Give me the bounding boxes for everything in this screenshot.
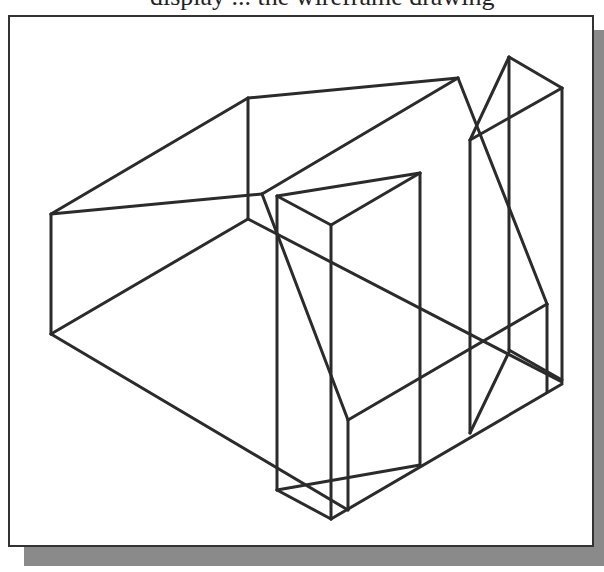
wireframe-model <box>0 0 604 572</box>
main-block-wireframe <box>51 78 562 510</box>
